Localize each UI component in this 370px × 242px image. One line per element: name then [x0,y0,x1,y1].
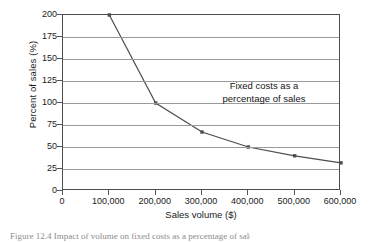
x-axis-tick-labels: 0100,000200,000300,000400,000500,000600,… [62,196,340,210]
x-axis-tick-marks [62,190,340,195]
gridline [63,169,339,170]
annotation-line-1: Fixed costs as a [196,80,332,93]
gridline [63,125,339,126]
y-tick-label: 25 [24,163,57,173]
data-point-marker [108,13,111,16]
y-tick-label: 175 [24,31,57,41]
x-tick-label: 500,000 [277,196,310,206]
x-tick-label: 100,000 [92,196,125,206]
gridline [63,37,339,38]
x-tick-label: 300,000 [185,196,218,206]
y-tick-label: 200 [24,9,57,19]
y-tick-label: 75 [24,119,57,129]
figure-caption: Figure 12.4 Impact of volume on fixed co… [10,231,250,242]
y-tick-label: 0 [24,185,57,195]
y-tick-label: 50 [24,141,57,151]
gridline [63,147,339,148]
x-tick-mark [155,190,156,195]
x-tick-label: 200,000 [138,196,171,206]
x-tick-label: 0 [59,196,64,206]
x-tick-mark [201,190,202,195]
data-point-marker [339,161,342,164]
y-tick-label: 150 [24,53,57,63]
x-tick-mark [108,190,109,195]
x-tick-mark [340,190,341,195]
annotation-line-2: percentage of sales [196,93,332,106]
y-tick-label: 100 [24,97,57,107]
x-tick-mark [294,190,295,195]
data-point-marker [200,130,203,133]
x-tick-mark [62,190,63,195]
y-tick-label: 125 [24,75,57,85]
figure-container: Percent of sales (%) 0255075100125150175… [0,0,370,242]
x-tick-label: 600,000 [324,196,357,206]
x-tick-mark [247,190,248,195]
y-axis-tick-labels: 0255075100125150175200 [24,14,57,190]
x-tick-label: 400,000 [231,196,264,206]
chart-annotation: Fixed costs as a percentage of sales [196,80,332,105]
x-axis-title: Sales volume ($) [62,209,340,220]
data-point-marker [293,154,296,157]
gridline [63,59,339,60]
